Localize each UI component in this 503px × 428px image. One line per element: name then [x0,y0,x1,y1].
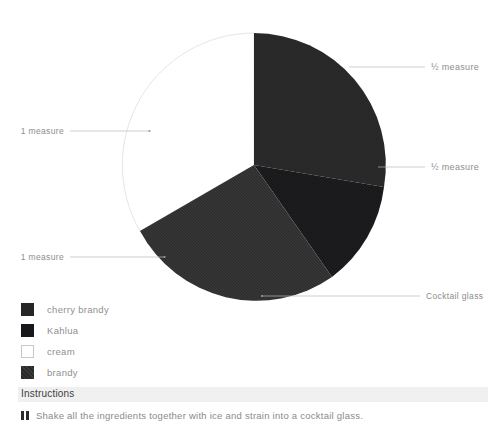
instructions-title: Instructions [21,388,75,399]
legend-item-brandy: brandy [21,363,241,382]
recipe-infographic: ½ measure ½ measure Cocktail glass 1 mea… [0,0,503,428]
legend-item-cherry-brandy: cherry brandy [21,300,241,319]
legend-swatch-kahlua [21,324,34,337]
legend: cherry brandy Kahlua cream brandy [21,300,241,384]
legend-swatch-brandy [21,366,34,379]
step-bullet-icon [21,411,29,420]
legend-item-kahlua: Kahlua [21,321,241,340]
legend-swatch-cherry-brandy [21,303,34,316]
instructions-band [18,387,488,402]
legend-label-cherry-brandy: cherry brandy [47,304,109,315]
legend-swatch-cream [21,345,34,358]
legend-label-brandy: brandy [47,367,78,378]
callout-kahlua: ½ measure [431,163,479,172]
instruction-step: Shake all the ingredients together with … [21,410,363,421]
legend-item-cream: cream [21,342,241,361]
callout-cherry-brandy: ½ measure [431,63,479,72]
callout-cocktail-glass: Cocktail glass [426,292,483,301]
callout-cream: 1 measure [0,127,64,136]
legend-label-cream: cream [47,346,75,357]
pie-slice-cherry-brandy [254,33,386,187]
instruction-step-text: Shake all the ingredients together with … [36,410,363,421]
legend-label-kahlua: Kahlua [47,325,78,336]
callout-brandy: 1 measure [0,253,64,262]
